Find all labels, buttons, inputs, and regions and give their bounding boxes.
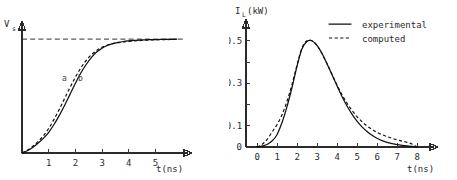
legend-label-computed: computed bbox=[362, 34, 405, 44]
right-x-axis-label: t(ns) bbox=[407, 164, 434, 174]
left-x-tick-group: 12345 bbox=[46, 149, 158, 168]
right-y-axis-label: I bbox=[235, 6, 240, 16]
left-x-tick-label: 4 bbox=[126, 158, 131, 168]
right-x-tick-label: 4 bbox=[334, 152, 339, 162]
right-curve-computed bbox=[257, 40, 417, 147]
right-x-tick-label: 7 bbox=[394, 152, 399, 162]
legend: experimental computed bbox=[329, 20, 427, 44]
right-x-tick-label: 3 bbox=[314, 152, 319, 162]
left-x-tick-label: 1 bbox=[46, 158, 51, 168]
left-y-axis-label-subscript: s bbox=[12, 25, 16, 33]
right-x-tick-group: 012345678 bbox=[254, 143, 419, 162]
right-y-axis-label-subscript: L bbox=[242, 11, 246, 19]
right-y-tick-label: 0 bbox=[237, 142, 242, 152]
left-y-axis-label: V bbox=[4, 19, 10, 29]
figure-container: 12345 V s t(ns) a b 012345678 00.10.30.5 bbox=[0, 0, 457, 180]
right-y-tick-group: 00.10.30.5 bbox=[229, 36, 250, 152]
right-y-axis-label-unit: (kW) bbox=[247, 6, 269, 16]
right-chart-svg: 012345678 00.10.30.5 I L (kW) t(ns) expe… bbox=[229, 0, 457, 180]
right-x-tick-label: 0 bbox=[254, 152, 259, 162]
right-x-tick-label: 6 bbox=[374, 152, 379, 162]
left-curve-b bbox=[22, 39, 177, 153]
right-y-tick-label: 0.3 bbox=[229, 78, 242, 88]
left-curve-label-b: b bbox=[78, 74, 83, 83]
left-x-axis-label: t(ns) bbox=[156, 164, 183, 174]
right-x-tick-label: 8 bbox=[414, 152, 419, 162]
right-x-tick-label: 2 bbox=[294, 152, 299, 162]
left-x-tick-label: 3 bbox=[99, 158, 104, 168]
right-y-tick-label: 0.5 bbox=[229, 36, 242, 46]
left-x-tick-label: 2 bbox=[73, 158, 78, 168]
right-x-tick-label: 1 bbox=[274, 152, 279, 162]
chart-panel-left: 12345 V s t(ns) a b bbox=[0, 0, 229, 180]
chart-panel-right: 012345678 00.10.30.5 I L (kW) t(ns) expe… bbox=[229, 0, 457, 180]
right-y-tick-label: 0.1 bbox=[229, 121, 242, 131]
left-curve-label-a: a bbox=[62, 74, 67, 83]
left-chart-svg: 12345 V s t(ns) a b bbox=[0, 0, 229, 180]
right-x-tick-label: 5 bbox=[354, 152, 359, 162]
legend-label-experimental: experimental bbox=[362, 20, 427, 30]
right-curve-experimental bbox=[257, 40, 417, 147]
